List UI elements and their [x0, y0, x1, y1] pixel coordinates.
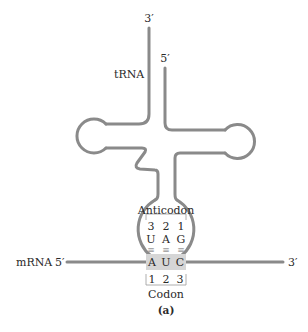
- codon-position-2: 2: [163, 273, 170, 286]
- anticodon-position-2: 2: [163, 220, 170, 233]
- codon-label: Codon: [148, 288, 184, 301]
- trna-stem-left: [106, 148, 158, 200]
- codon-base-u: U: [161, 256, 170, 269]
- codon-base-a: A: [147, 256, 157, 269]
- anticodon-label: Anticodon: [137, 204, 195, 217]
- trna-label: tRNA: [114, 68, 145, 81]
- mrna-label: mRNA: [16, 256, 53, 269]
- base-pair-symbol-3: ≡: [177, 245, 185, 255]
- codon-base-c: C: [176, 256, 184, 269]
- base-pair-symbol-1: ≡: [147, 245, 155, 255]
- mrna-3prime-label: 3′: [288, 256, 298, 269]
- trna-stem-right: [175, 153, 225, 200]
- trna-right-loop: [225, 124, 255, 158]
- base-pair-symbol-2: ≡: [162, 245, 170, 255]
- mrna-5prime-label: 5′: [55, 256, 65, 269]
- codon-position-3: 3: [177, 273, 184, 286]
- trna-3prime-label: 3′: [144, 12, 154, 25]
- trna-left-loop: [77, 119, 106, 153]
- trna-mrna-diagram: 3′ 5′ tRNA Anticodon 3 2 1 U A G ≡ ≡ ≡ A…: [0, 0, 308, 332]
- figure-caption: (a): [158, 304, 175, 316]
- trna-5prime-strand: [165, 68, 225, 130]
- codon-position-1: 1: [149, 273, 156, 286]
- anticodon-position-1: 1: [178, 220, 185, 233]
- anticodon-position-3: 3: [148, 220, 155, 233]
- trna-5prime-label: 5′: [160, 52, 170, 65]
